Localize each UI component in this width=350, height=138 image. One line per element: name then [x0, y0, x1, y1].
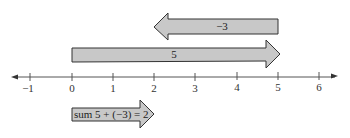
- right-arrowhead-icon: [331, 74, 338, 79]
- negative-three-arrow: −3: [154, 13, 278, 40]
- tick-label: 2: [151, 82, 157, 94]
- sum-label: sum 5 + (−3) = 2: [74, 108, 149, 121]
- tick-label: 0: [69, 82, 75, 94]
- tick-label: 6: [316, 81, 322, 93]
- tick-label: 3: [192, 82, 198, 94]
- positive-five-label: 5: [171, 48, 177, 60]
- tick-label: 4: [234, 81, 240, 93]
- tick-label: −1: [22, 82, 34, 94]
- tick-label: 1: [110, 82, 116, 94]
- tick-label: 5: [275, 81, 281, 93]
- positive-five-arrow: 5: [72, 40, 280, 68]
- negative-three-label: −3: [216, 20, 228, 32]
- sum-arrow: sum 5 + (−3) = 2: [72, 100, 154, 128]
- number-line: −1 0 1 2 3 4 5 6: [11, 72, 338, 94]
- left-arrowhead-icon: [11, 75, 18, 80]
- number-line-diagram: −3 5 −1 0 1 2 3 4 5 6 sum 5 + (−3) = 2: [0, 0, 350, 138]
